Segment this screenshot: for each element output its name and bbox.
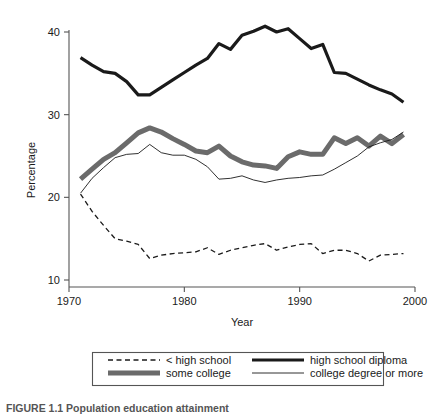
y-tick-label: 20 (48, 191, 60, 203)
x-axis-title: Year (231, 316, 254, 328)
legend-label-1: high school diploma (310, 354, 408, 366)
legend-items: < high schoolhigh school diplomasome col… (108, 354, 423, 379)
y-tick-label: 30 (48, 109, 60, 121)
series-line-0 (81, 194, 404, 261)
figure-caption: FIGURE 1.1 Population education attainme… (6, 401, 436, 415)
series-group (81, 26, 404, 261)
x-tick-label: 2000 (403, 295, 427, 307)
line-chart: 10203040 1970198019902000 Percentage Yea… (0, 0, 440, 415)
y-tick-label: 10 (48, 274, 60, 286)
legend-label-3: college degree or more (310, 367, 423, 379)
y-tick-label: 40 (48, 26, 60, 38)
x-tick-group: 1970198019902000 (57, 287, 427, 307)
x-tick-label: 1980 (172, 295, 196, 307)
axes-group (69, 30, 415, 287)
legend-label-0: < high school (166, 354, 231, 366)
y-axis-title: Percentage (25, 142, 37, 198)
series-line-2 (81, 128, 404, 179)
legend: < high schoolhigh school diplomasome col… (93, 353, 424, 386)
series-line-1 (81, 26, 404, 102)
x-tick-label: 1970 (57, 295, 81, 307)
y-tick-group: 10203040 (48, 26, 69, 286)
x-tick-label: 1990 (287, 295, 311, 307)
legend-label-2: some college (166, 367, 231, 379)
figure-container: 10203040 1970198019902000 Percentage Yea… (0, 0, 440, 415)
